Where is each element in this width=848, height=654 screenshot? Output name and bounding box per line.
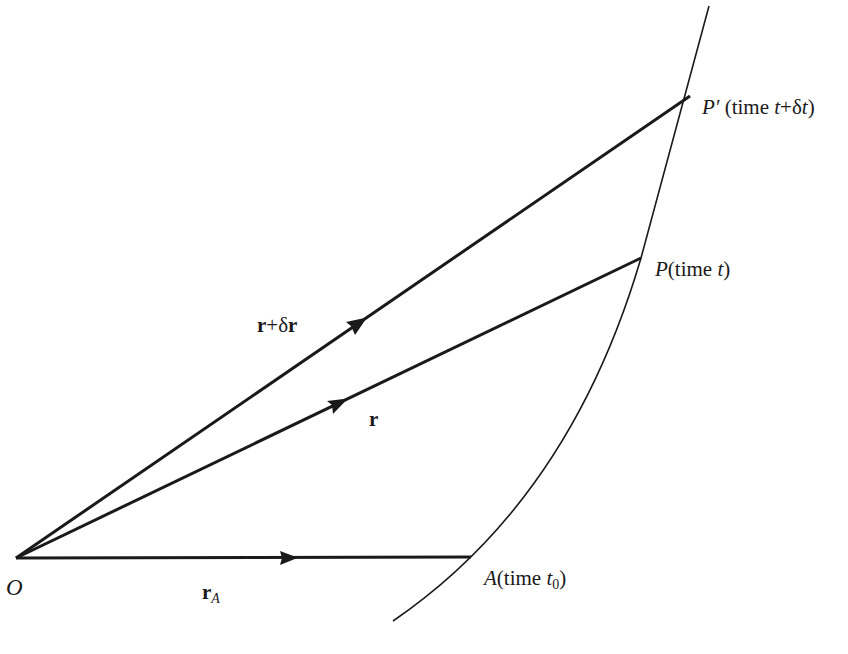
origin-label: O [6, 576, 23, 599]
point-P-prime-plus: +δ [780, 95, 802, 119]
vector-r-label: r [369, 409, 378, 430]
vector-r-plus-dr-mid: +δ [266, 313, 288, 337]
vector-r-plus-dr-arrowhead-icon [346, 318, 367, 336]
point-P-label: P(time t) [655, 259, 730, 280]
vector-r-line [16, 258, 641, 558]
point-P-prime-time-suffix: ) [808, 95, 815, 119]
vector-r-plus-dr-bold1: r [257, 313, 266, 337]
origin-name: O [6, 575, 23, 600]
trajectory-curve [393, 6, 709, 621]
point-A-time-prefix: (time [497, 566, 547, 590]
point-A-name: A [484, 566, 497, 590]
vector-rA-bold: r [202, 580, 211, 604]
point-P-name: P [655, 257, 668, 281]
vector-r-bold: r [369, 407, 378, 431]
point-P-prime-label: P′ (time t+δt) [702, 97, 815, 118]
point-P-prime-name: P′ [702, 95, 719, 119]
vector-r-plus-dr-label: r+δr [257, 315, 297, 336]
point-P-time-prefix: (time [668, 257, 718, 281]
vector-rA-arrowhead-icon [280, 551, 298, 565]
point-A-label: A(time t0) [484, 568, 566, 592]
point-P-time-suffix: ) [723, 257, 730, 281]
vector-rA-sub: A [211, 591, 220, 606]
vector-r-plus-dr-bold2: r [288, 313, 297, 337]
vector-rA-label: rA [202, 582, 220, 606]
point-P-prime-time-prefix: (time [719, 95, 774, 119]
vector-rA-line [16, 557, 471, 558]
point-A-time-suffix: ) [559, 566, 566, 590]
